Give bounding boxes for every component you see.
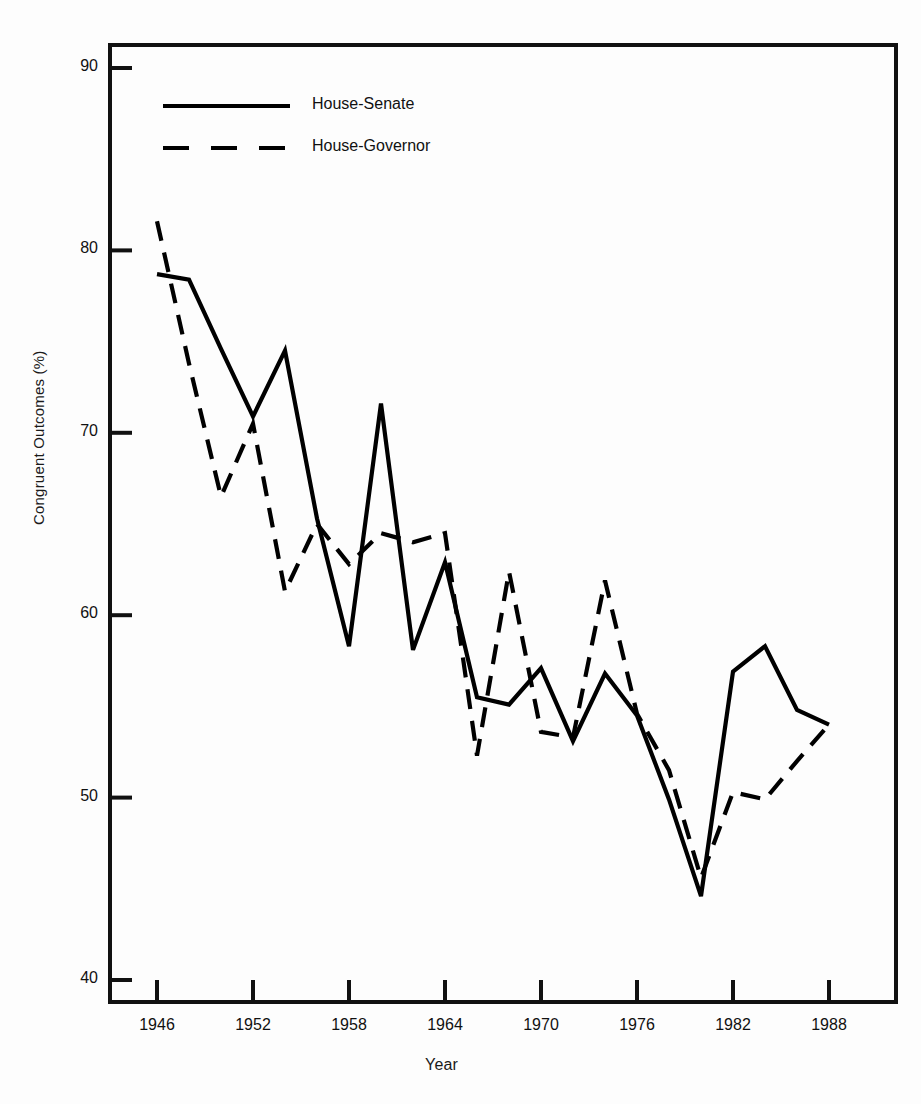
x-axis-title: Year	[425, 1056, 458, 1074]
plot-frame	[110, 45, 896, 1002]
line-chart-canvas	[0, 0, 921, 1104]
legend-label-house-senate: House-Senate	[312, 95, 414, 113]
x-tick-label: 1946	[122, 1016, 192, 1034]
x-tick-label: 1970	[506, 1016, 576, 1034]
x-tick-label: 1988	[794, 1016, 864, 1034]
y-tick-label: 40	[58, 969, 98, 987]
data-series-layer	[157, 221, 829, 896]
y-tick-label: 70	[58, 422, 98, 440]
x-tick-label: 1982	[698, 1016, 768, 1034]
x-tick-label: 1958	[314, 1016, 384, 1034]
legend-label-house-governor: House-Governor	[312, 137, 430, 155]
y-tick-label: 60	[58, 604, 98, 622]
y-tick-label: 50	[58, 787, 98, 805]
x-tick-label: 1952	[218, 1016, 288, 1034]
chart-figure: Congruent Outcomes (%) Year 405060708090…	[0, 0, 921, 1104]
y-axis-title: Congruent Outcomes (%)	[30, 351, 47, 525]
y-tick-label: 80	[58, 239, 98, 257]
x-tick-label: 1976	[602, 1016, 672, 1034]
series-line-house-governor	[157, 221, 829, 878]
y-tick-label: 90	[58, 57, 98, 75]
legend-sample-lines	[163, 106, 290, 148]
y-axis-tick-marks	[110, 68, 132, 980]
x-tick-label: 1964	[410, 1016, 480, 1034]
x-axis-tick-marks	[157, 980, 829, 1002]
